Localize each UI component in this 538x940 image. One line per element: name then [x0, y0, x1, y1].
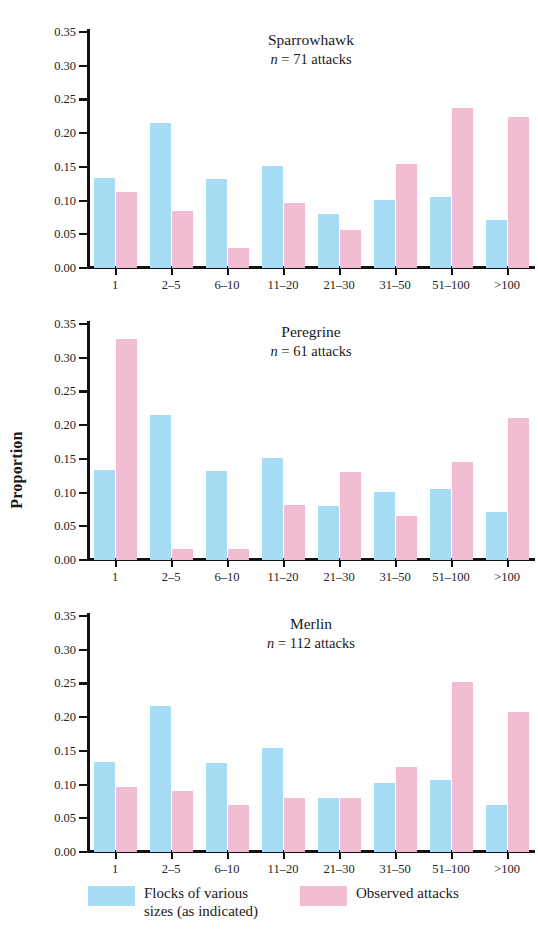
- bar-observed: [172, 549, 193, 560]
- bar-flocks: [94, 470, 115, 560]
- bar-flocks: [318, 214, 339, 268]
- y-axis-tick-label: 0.35: [32, 609, 76, 624]
- x-axis-tick-mark: [283, 560, 285, 567]
- x-axis-tick-label: 2–5: [162, 278, 181, 293]
- x-axis-tick-label: 6–10: [215, 862, 240, 877]
- bar-observed: [172, 211, 193, 268]
- x-axis-tick-label: 21–30: [323, 570, 354, 585]
- y-axis-tick-mark: [79, 323, 88, 325]
- y-axis-tick-label: 0.10: [32, 485, 76, 500]
- n-symbol: n: [270, 51, 277, 67]
- y-axis-tick-mark: [79, 525, 88, 527]
- x-axis-tick-mark: [451, 268, 453, 275]
- y-axis-tick-label: 0.15: [32, 743, 76, 758]
- x-axis-tick-label: 21–30: [323, 278, 354, 293]
- y-axis-tick-mark: [79, 424, 88, 426]
- bar-observed: [452, 108, 473, 268]
- bar-observed: [508, 418, 529, 560]
- x-axis-tick-label: >100: [494, 570, 520, 585]
- legend-swatch-flocks: [88, 886, 135, 906]
- y-axis-tick-mark: [79, 98, 88, 100]
- panel-sample-size: n = 112 attacks: [87, 634, 535, 653]
- bar-observed: [396, 767, 417, 852]
- x-axis-tick-mark: [339, 268, 341, 275]
- figure-multipanel-bar-chart: Proportion Sparrowhawk n = 71 attacks 0.…: [0, 0, 538, 940]
- x-axis-tick-mark: [227, 560, 229, 567]
- x-axis-tick-label: 1: [112, 278, 118, 293]
- x-axis-tick-mark: [395, 852, 397, 859]
- y-axis-tick-label: 0.20: [32, 418, 76, 433]
- panel-title-merlin: Merlin n = 112 attacks: [87, 614, 535, 652]
- bar-observed: [228, 805, 249, 852]
- y-axis-tick-mark: [79, 750, 88, 752]
- panel-species-name: Peregrine: [87, 322, 535, 342]
- y-axis-tick-mark: [79, 817, 88, 819]
- panel-species-name: Merlin: [87, 614, 535, 634]
- y-axis-tick-label: 0.20: [32, 710, 76, 725]
- bar-observed: [284, 203, 305, 268]
- legend-label-flocks: Flocks of various sizes (as indicated): [144, 884, 258, 921]
- x-axis-tick-label: 51–100: [432, 278, 470, 293]
- y-axis-tick-mark: [79, 200, 88, 202]
- panel-merlin: Merlin n = 112 attacks 0.000.050.100.150…: [40, 600, 538, 892]
- x-axis-tick-mark: [507, 268, 509, 275]
- y-axis-tick-mark: [79, 65, 88, 67]
- x-axis-tick-mark: [451, 560, 453, 567]
- x-axis-tick-label: 11–20: [268, 862, 299, 877]
- y-axis-tick-mark: [79, 267, 88, 269]
- y-axis-label: Proportion: [8, 431, 26, 508]
- x-axis-tick-label: 21–30: [323, 862, 354, 877]
- bar-observed: [340, 472, 361, 560]
- bar-flocks: [486, 805, 507, 852]
- x-axis-tick-mark: [395, 560, 397, 567]
- panel-title-peregrine: Peregrine n = 61 attacks: [87, 322, 535, 360]
- x-axis-tick-mark: [115, 852, 117, 859]
- y-axis-tick-mark: [79, 649, 88, 651]
- panel-title-sparrowhawk: Sparrowhawk n = 71 attacks: [87, 30, 535, 68]
- bar-flocks: [150, 415, 171, 560]
- y-axis-tick-label: 0.20: [32, 126, 76, 141]
- y-axis-tick-label: 0.05: [32, 811, 76, 826]
- y-axis-tick-mark: [79, 492, 88, 494]
- x-axis-tick-label: >100: [494, 278, 520, 293]
- plot-area-merlin: Merlin n = 112 attacks 0.000.050.100.150…: [40, 600, 538, 892]
- x-axis-tick-label: 31–50: [379, 862, 410, 877]
- bar-flocks: [318, 798, 339, 852]
- bar-observed: [116, 787, 137, 852]
- legend-swatch-observed: [300, 886, 347, 906]
- y-axis-tick-label: 0.25: [32, 384, 76, 399]
- bar-flocks: [374, 200, 395, 268]
- panel-sample-size: n = 71 attacks: [87, 50, 535, 69]
- bar-flocks: [262, 458, 283, 560]
- legend-item-observed: Observed attacks: [300, 884, 459, 906]
- legend-item-flocks: Flocks of various sizes (as indicated): [88, 884, 258, 921]
- y-axis-tick-label: 0.30: [32, 642, 76, 657]
- x-axis-tick-mark: [171, 268, 173, 275]
- bar-flocks: [150, 123, 171, 268]
- bar-observed: [452, 682, 473, 852]
- bar-flocks: [206, 471, 227, 560]
- bar-observed: [340, 230, 361, 268]
- x-axis-tick-mark: [227, 852, 229, 859]
- bar-observed: [508, 712, 529, 852]
- x-axis-tick-mark: [395, 268, 397, 275]
- x-axis-tick-label: 31–50: [379, 278, 410, 293]
- bar-observed: [116, 192, 137, 268]
- bar-flocks: [374, 492, 395, 560]
- x-axis-tick-label: 6–10: [215, 278, 240, 293]
- y-axis-tick-mark: [79, 615, 88, 617]
- bar-observed: [452, 462, 473, 560]
- x-axis-tick-label: 11–20: [268, 570, 299, 585]
- bar-flocks: [374, 783, 395, 852]
- bar-flocks: [318, 506, 339, 560]
- bar-flocks: [206, 763, 227, 852]
- legend-label-observed: Observed attacks: [356, 884, 459, 902]
- y-axis-label-wrap: Proportion: [2, 390, 32, 550]
- panel-peregrine: Peregrine n = 61 attacks 0.000.050.100.1…: [40, 308, 538, 600]
- x-axis-tick-mark: [283, 268, 285, 275]
- x-axis-tick-mark: [115, 560, 117, 567]
- x-axis-tick-mark: [171, 560, 173, 567]
- bar-flocks: [94, 762, 115, 852]
- plot-area-peregrine: Peregrine n = 61 attacks 0.000.050.100.1…: [40, 308, 538, 600]
- y-axis-tick-label: 0.10: [32, 193, 76, 208]
